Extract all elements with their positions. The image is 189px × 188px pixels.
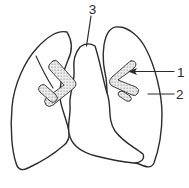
pointer-line-3 — [87, 16, 92, 46]
left-lung-outline — [11, 32, 71, 170]
label-2: 2 — [176, 87, 184, 102]
label-1: 1 — [177, 65, 185, 80]
anatomical-diagram-figure: 3 1 2 — [0, 0, 189, 188]
label-3: 3 — [89, 2, 97, 17]
diagram-linework — [11, 16, 174, 170]
lungs-heart-line-diagram: 3 1 2 — [0, 0, 189, 188]
